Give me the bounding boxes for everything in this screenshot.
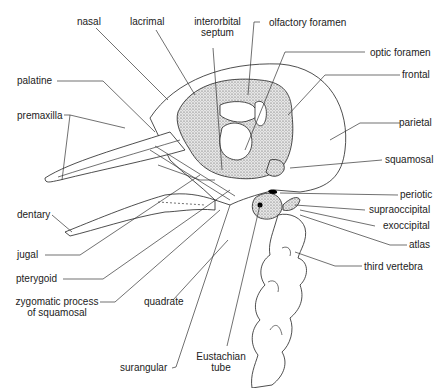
label-frontal: frontal (402, 69, 430, 80)
label-atlas: atlas (409, 239, 430, 250)
interorbital-opening (220, 123, 252, 160)
label-dentary: dentary (17, 209, 50, 220)
olfactory-foramen-shape (220, 102, 258, 123)
label-quadrate: quadrate (144, 296, 183, 307)
label-palatine: palatine (17, 75, 52, 86)
label-third-vertebra: third vertebra (364, 261, 423, 272)
label-supraoccipital: supraoccipital (369, 204, 430, 215)
cervical-vertebrae (252, 214, 307, 388)
label-periotic: periotic (400, 189, 432, 200)
label-eustachian-tube: Eustachian tube (190, 351, 252, 373)
label-olfactory-foramen: olfactory foramen (269, 17, 346, 28)
label-nasal: nasal (77, 16, 101, 27)
skull-diagram: nasal lacrimal interorbital septum olfac… (0, 0, 445, 388)
label-interorbital-septum: interorbital septum (185, 16, 250, 38)
label-exoccipital: exoccipital (383, 220, 430, 231)
label-parietal: parietal (399, 117, 432, 128)
label-surangular: surangular (120, 362, 167, 373)
label-pterygoid: pterygoid (16, 273, 57, 284)
label-jugal: jugal (17, 249, 38, 260)
label-optic-foramen: optic foramen (370, 47, 431, 58)
supraoccipital-shape (283, 198, 300, 211)
label-squamosal: squamosal (385, 154, 433, 165)
skull-drawing (0, 0, 445, 388)
label-lacrimal: lacrimal (130, 16, 164, 27)
label-premaxilla: premaxilla (17, 110, 63, 121)
label-zygomatic-process: zygomatic process of squamosal (12, 296, 102, 318)
